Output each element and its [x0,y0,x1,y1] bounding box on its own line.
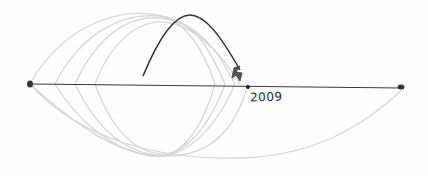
timeline-line [30,84,402,88]
marker-label-2009: 2009 [250,89,283,104]
faded-lower-arcs [30,84,402,158]
sketch [0,0,428,176]
start-dot [27,81,33,88]
timeline-diagram: 2009 [0,0,428,176]
end-dot [398,85,405,90]
marker-dot-2009 [246,85,250,89]
